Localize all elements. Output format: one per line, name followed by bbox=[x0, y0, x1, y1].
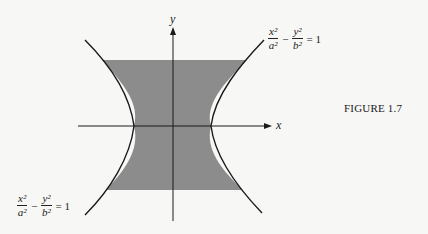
equals-one: = 1 bbox=[307, 33, 321, 45]
x-axis-label: x bbox=[276, 118, 281, 133]
fraction-y: y² b² bbox=[292, 26, 302, 51]
equals-one: = 1 bbox=[56, 200, 70, 212]
y-axis-label: y bbox=[170, 12, 175, 27]
x-axis-arrow-icon bbox=[264, 123, 272, 129]
equation-bottom: x² a² − y² b² = 1 bbox=[17, 193, 74, 218]
minus-sign: − bbox=[31, 200, 37, 212]
equation-top: x² a² − y² b² = 1 bbox=[268, 26, 325, 51]
figure-caption: FIGURE 1.7 bbox=[344, 102, 402, 114]
numerator: x² bbox=[268, 26, 278, 39]
fraction-x: x² a² bbox=[17, 193, 27, 218]
numerator: y² bbox=[292, 26, 302, 39]
numerator: x² bbox=[17, 193, 27, 206]
numerator: y² bbox=[41, 193, 51, 206]
denominator: b² bbox=[42, 206, 51, 218]
denominator: b² bbox=[293, 39, 302, 51]
denominator: a² bbox=[269, 39, 278, 51]
minus-sign: − bbox=[282, 33, 288, 45]
denominator: a² bbox=[18, 206, 27, 218]
shaded-region bbox=[102, 60, 247, 190]
fraction-x: x² a² bbox=[268, 26, 278, 51]
y-axis-arrow-icon bbox=[170, 27, 176, 35]
fraction-y: y² b² bbox=[41, 193, 51, 218]
